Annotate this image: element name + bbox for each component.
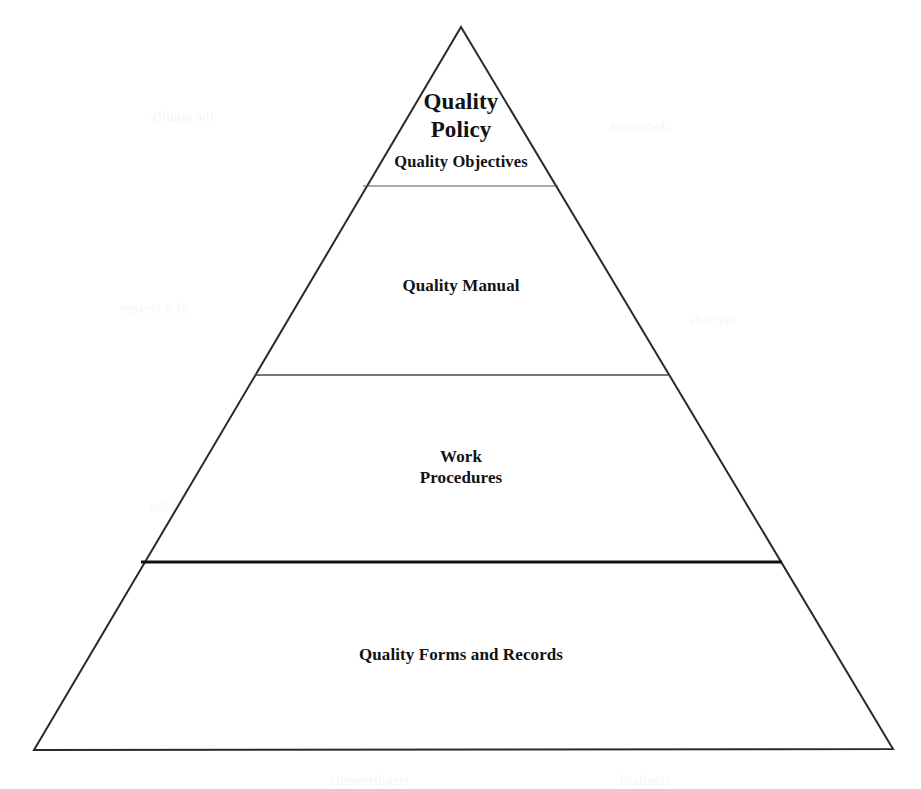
- tier-4-title: Quality Forms and Records: [311, 645, 611, 665]
- tier-2-title: Quality Manual: [311, 276, 611, 296]
- tier-3-title: Work Procedures: [311, 446, 611, 489]
- tier-1-subtitle: Quality Objectives: [311, 152, 611, 171]
- tier-1-title: Quality Policy: [311, 88, 611, 144]
